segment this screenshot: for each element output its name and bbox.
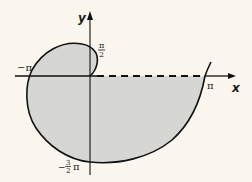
label-pi-half-num: π xyxy=(99,41,104,50)
x-axis-arrow-icon xyxy=(228,73,236,79)
label-pi: π xyxy=(207,80,214,91)
label-pi-half-den: 2 xyxy=(99,50,104,59)
y-axis-arrow-icon xyxy=(87,11,93,20)
label-neg-three-half-pi-sign: − xyxy=(58,162,66,172)
label-neg-three-half-pi-den: 2 xyxy=(66,167,70,175)
label-neg-three-half-pi-pi: π xyxy=(73,161,80,172)
shaded-region xyxy=(27,43,205,162)
label-neg-pi: −π xyxy=(17,62,32,73)
label-neg-three-half-pi-num: 3 xyxy=(66,159,70,167)
x-axis-label: x xyxy=(231,81,241,95)
spiral-diagram: y x π 2 −π π − 3 2 π xyxy=(0,0,252,182)
y-axis-label: y xyxy=(78,11,87,25)
